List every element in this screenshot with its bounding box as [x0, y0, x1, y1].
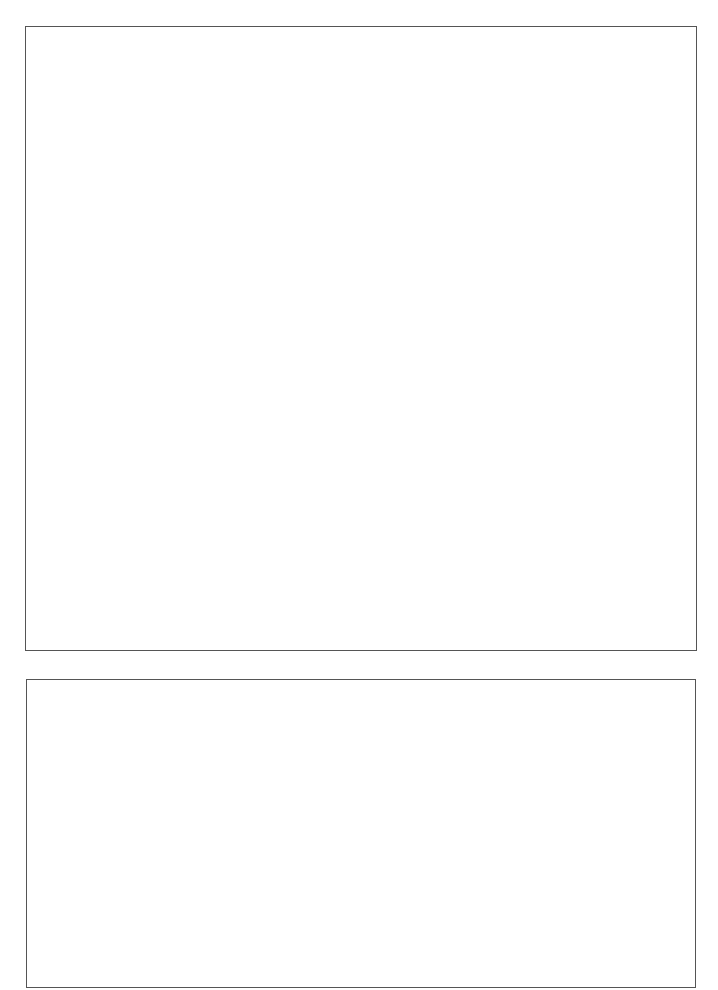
- bottom-empty-panel: [26, 679, 696, 988]
- top-empty-panel: [25, 26, 697, 651]
- page: [0, 0, 718, 990]
